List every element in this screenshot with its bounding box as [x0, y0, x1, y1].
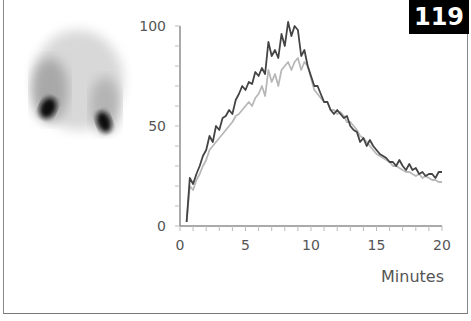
series-line [187, 58, 442, 222]
y-tick-label: 100 [139, 18, 166, 34]
renogram-chart: 05010005101520Minutes [0, 0, 471, 321]
x-tick-label: 10 [302, 237, 320, 253]
chart-axes: 05010005101520Minutes [139, 18, 451, 286]
y-tick-label: 0 [157, 218, 166, 234]
series-line [187, 22, 442, 222]
x-tick-label: 15 [368, 237, 386, 253]
x-tick-label: 0 [176, 237, 185, 253]
chart-series [187, 22, 442, 222]
x-axis-label: Minutes [381, 267, 444, 286]
x-tick-label: 20 [433, 237, 451, 253]
y-tick-label: 50 [148, 118, 166, 134]
x-tick-label: 5 [241, 237, 250, 253]
